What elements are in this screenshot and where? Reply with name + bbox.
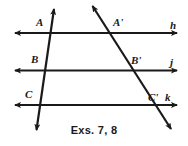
- point-label-c: C: [25, 89, 32, 100]
- point-label-c-prime: C': [148, 92, 158, 103]
- right-transversal: [93, 6, 172, 129]
- point-label-a-prime: A': [113, 17, 123, 28]
- point-label-a: A: [36, 17, 43, 28]
- line-label-j: j: [170, 57, 173, 68]
- line-label-k: k: [165, 92, 171, 103]
- figure-caption: Exs. 7, 8: [0, 124, 188, 136]
- point-label-b: B: [31, 54, 38, 65]
- line-label-h: h: [170, 20, 176, 31]
- geometry-figure: A B C A' B' C' h j k Exs. 7, 8: [0, 0, 188, 146]
- point-label-b-prime: B': [131, 55, 141, 66]
